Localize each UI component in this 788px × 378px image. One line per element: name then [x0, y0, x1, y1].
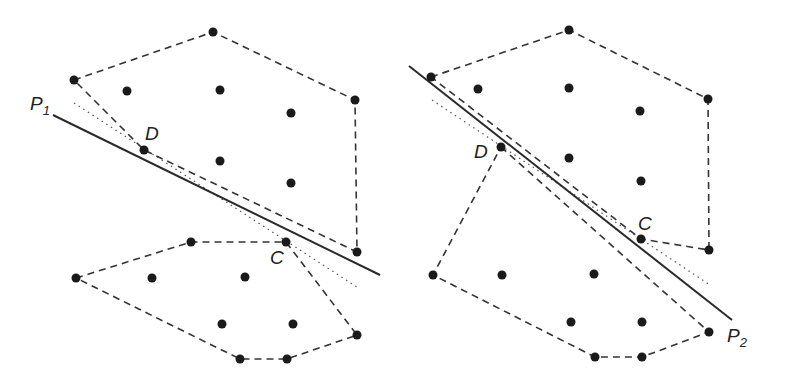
data-point	[218, 320, 227, 329]
data-point	[70, 76, 79, 85]
right-panel	[409, 26, 732, 362]
data-point	[282, 238, 291, 247]
data-point	[148, 274, 157, 283]
data-point	[287, 109, 296, 118]
label-right-c: C	[638, 213, 652, 234]
separating-line-p2	[409, 66, 732, 320]
data-point	[353, 248, 362, 257]
data-point	[638, 318, 647, 327]
data-point	[283, 355, 292, 364]
data-point	[704, 95, 713, 104]
data-point	[236, 355, 245, 364]
data-point	[429, 271, 438, 280]
data-point	[353, 331, 362, 340]
label-left-c: C	[270, 247, 284, 268]
left-panel	[53, 28, 380, 364]
data-point	[209, 28, 218, 37]
label-left-d: D	[145, 123, 159, 144]
convex-hull-1	[431, 30, 709, 250]
data-point	[474, 85, 483, 94]
data-point	[351, 96, 360, 105]
data-point	[241, 273, 250, 282]
data-point	[140, 146, 149, 155]
data-point	[567, 318, 576, 327]
data-point	[216, 157, 225, 166]
data-point	[289, 320, 298, 329]
data-point	[427, 73, 436, 82]
data-point	[637, 177, 646, 186]
data-point	[591, 353, 600, 362]
label-p2: P2	[727, 325, 748, 350]
diagram-canvas: P1 D C D C P2	[0, 0, 788, 378]
data-point	[590, 270, 599, 279]
data-point	[638, 353, 647, 362]
data-point	[498, 271, 507, 280]
data-point	[636, 107, 645, 116]
data-point	[72, 274, 81, 283]
label-right-d: D	[474, 141, 488, 162]
data-point	[705, 246, 714, 255]
data-point	[187, 238, 196, 247]
data-point	[637, 235, 646, 244]
data-point	[705, 328, 714, 337]
data-point	[565, 154, 574, 163]
data-point	[565, 26, 574, 35]
label-p1: P1	[30, 93, 50, 118]
separating-line-p1	[53, 115, 380, 275]
data-point	[287, 179, 296, 188]
data-point	[497, 143, 506, 152]
data-point	[565, 84, 574, 93]
data-point	[123, 87, 132, 96]
convex-hull-1	[74, 32, 357, 252]
data-point	[216, 86, 225, 95]
